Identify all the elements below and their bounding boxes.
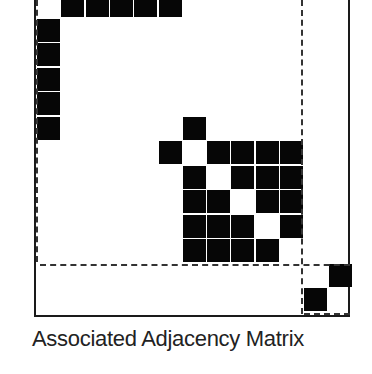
matrix-cell [280,166,303,189]
matrix-cell [61,0,84,17]
figure-caption: Associated Adjacency Matrix [32,326,304,352]
matrix-cell [37,117,60,140]
matrix-cell [86,0,109,17]
matrix-cell [280,215,303,238]
matrix-cell [280,141,303,164]
matrix-cell [304,288,327,311]
matrix-cell [183,190,206,213]
matrix-cell [231,166,254,189]
matrix-cell [134,0,157,17]
matrix-cell [183,117,206,140]
matrix-cell [207,239,230,262]
matrix-cell [183,215,206,238]
matrix-cell [256,166,279,189]
matrix-cell [207,190,230,213]
matrix-cell [37,92,60,115]
block-separator-left [36,0,38,262]
matrix-cell [183,239,206,262]
block-3-bottom-edge [304,313,350,315]
matrix-cell [110,0,133,17]
block-separator-vertical [301,0,303,314]
matrix-cell [256,239,279,262]
matrix-cell [231,239,254,262]
matrix-cell [37,43,60,66]
matrix-cell [159,0,182,17]
matrix-cell [159,141,182,164]
matrix-cell [183,166,206,189]
matrix-cell [231,215,254,238]
matrix-cell [280,190,303,213]
matrix-cell [256,141,279,164]
block-separator-horizontal [40,264,350,266]
matrix-cell [256,190,279,213]
matrix-cell [207,215,230,238]
matrix-cell [329,264,352,287]
matrix-cell [37,19,60,42]
adjacency-matrix-figure: Associated Adjacency Matrix [0,0,372,374]
matrix-cell [207,141,230,164]
matrix-cell [231,141,254,164]
matrix-cell [37,68,60,91]
